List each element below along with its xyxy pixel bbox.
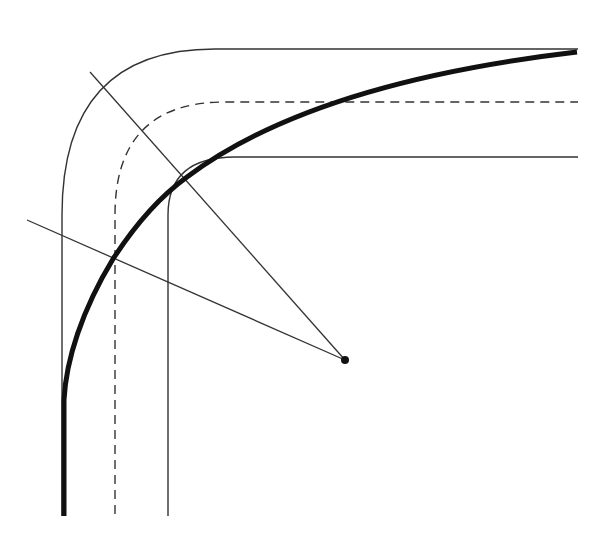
- diagram-canvas: [0, 0, 615, 543]
- centerline: [115, 102, 578, 514]
- curve-diagram: [0, 0, 615, 543]
- inner-edge: [168, 157, 578, 516]
- outer-edge: [62, 49, 578, 516]
- transition-curve: [64, 52, 577, 516]
- center-point: [341, 356, 349, 364]
